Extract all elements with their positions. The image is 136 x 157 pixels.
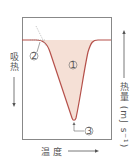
x-axis-label: 温度 (41, 145, 65, 157)
peak-area (38, 40, 98, 120)
right-axis-label: 热量 (mJ s⁻¹) (119, 82, 128, 148)
arrow-down-icon (12, 103, 15, 107)
arrow-right-icon (95, 149, 99, 152)
arrow-up-icon (122, 30, 125, 34)
arrow-up-icon (73, 122, 76, 125)
marker-2-label: 2 (31, 51, 37, 61)
marker-1-label: 1 (70, 60, 76, 70)
left-axis-label: 吸热 (9, 52, 18, 72)
dsc-diagram: 2 1 3 (0, 0, 136, 157)
marker-3-label: 3 (86, 126, 92, 136)
marker-2-leader (37, 42, 40, 52)
